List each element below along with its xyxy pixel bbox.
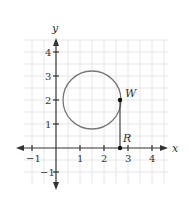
x-tick-label: 1 xyxy=(77,153,83,164)
y-axis xyxy=(53,40,59,186)
x-axis xyxy=(20,145,166,151)
x-tick-label: 3 xyxy=(125,153,131,164)
coordinate-plane: x y −1 1 2 3 4 4 3 2 1 −1 W R xyxy=(0,0,188,199)
x-tick-label: −1 xyxy=(26,153,41,164)
x-axis-label: x xyxy=(172,142,179,155)
y-tick-label: −1 xyxy=(40,167,55,178)
x-axis-arrow-left-icon xyxy=(16,145,24,151)
point-r xyxy=(118,146,122,150)
grid xyxy=(24,40,168,184)
point-w xyxy=(118,98,122,102)
y-tick-label: 3 xyxy=(45,71,51,82)
y-tick-label: 2 xyxy=(45,95,51,106)
y-tick-label: 4 xyxy=(45,47,51,58)
x-tick-label: 4 xyxy=(149,153,155,164)
y-axis-arrow-down-icon xyxy=(53,182,59,190)
y-axis-arrow-up-icon xyxy=(53,38,59,46)
point-w-label: W xyxy=(125,87,138,100)
y-tick-label: 1 xyxy=(45,119,51,130)
point-r-label: R xyxy=(122,132,131,145)
x-tick-label: 2 xyxy=(101,153,107,164)
y-axis-label: y xyxy=(51,22,59,35)
